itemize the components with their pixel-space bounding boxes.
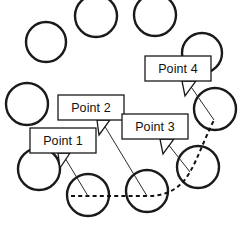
node-circle[interactable] bbox=[75, 0, 117, 37]
callout-label-point-3: Point 3 bbox=[135, 120, 175, 134]
node-circle[interactable] bbox=[126, 170, 168, 212]
diagram-canvas: Point 1 Point 2 Point 3 Point 4 bbox=[0, 0, 244, 225]
circle-path-diagram: Point 1 Point 2 Point 3 Point 4 bbox=[0, 0, 244, 225]
callout-point-4[interactable]: Point 4 bbox=[145, 56, 211, 96]
node-circle[interactable] bbox=[194, 88, 236, 130]
node-circle[interactable] bbox=[6, 83, 48, 125]
callout-tail-point-1 bbox=[58, 153, 70, 168]
callout-label-point-2: Point 2 bbox=[71, 101, 111, 115]
callout-tail-point-4 bbox=[182, 81, 196, 96]
node-circle[interactable] bbox=[134, 0, 176, 36]
callout-label-point-4: Point 4 bbox=[158, 62, 198, 76]
callout-tail-point-3 bbox=[160, 139, 174, 154]
callout-tail-point-2 bbox=[97, 120, 110, 135]
callout-label-point-1: Point 1 bbox=[43, 134, 83, 148]
callout-point-3[interactable]: Point 3 bbox=[122, 114, 188, 154]
node-circle[interactable] bbox=[26, 22, 66, 62]
node-circle[interactable] bbox=[18, 148, 60, 190]
